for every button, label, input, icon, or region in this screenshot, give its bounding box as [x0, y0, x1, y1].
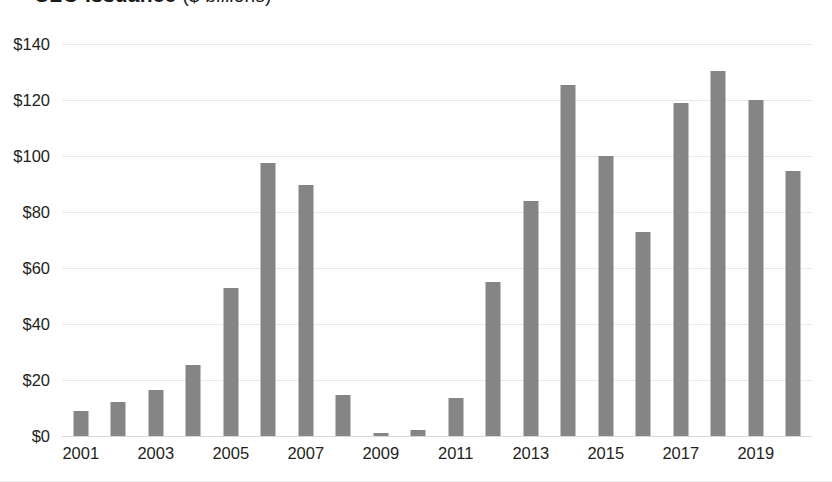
y-axis-tick-label: $0	[0, 427, 50, 446]
y-axis-tick-label: $140	[0, 35, 50, 54]
plot-area	[62, 44, 812, 436]
bar-2015	[598, 156, 613, 436]
y-axis-tick-label: $40	[0, 315, 50, 334]
page-title: CLO Issuance ($ billions)	[34, 0, 272, 7]
bar-2007	[298, 185, 313, 436]
bar-2001	[73, 411, 88, 436]
gridline-40	[62, 324, 812, 325]
bar-2002	[111, 402, 126, 436]
bar-2016	[636, 232, 651, 436]
bar-2008	[336, 395, 351, 436]
gridline-0	[62, 436, 812, 437]
x-axis-tick-label: 2011	[438, 444, 473, 463]
bar-2012	[486, 282, 501, 436]
y-axis-tick-label: $120	[0, 91, 50, 110]
bar-2006	[261, 163, 276, 436]
y-axis-tick-label: $60	[0, 259, 50, 278]
x-axis-tick-label: 2015	[587, 444, 624, 463]
bar-2005	[223, 288, 238, 436]
gridline-60	[62, 268, 812, 269]
chart-title-unit: ($ billions)	[183, 0, 272, 6]
bar-2018	[711, 71, 726, 436]
clo-issuance-bar-chart: CLO Issuance ($ billions) $0$20$40$60$80…	[0, 0, 832, 482]
gridline-120	[62, 100, 812, 101]
bar-2011	[448, 398, 463, 436]
y-axis-tick-label: $20	[0, 371, 50, 390]
x-axis-tick-label: 2019	[737, 444, 774, 463]
gridline-100	[62, 156, 812, 157]
x-axis-tick-label: 2009	[362, 444, 399, 463]
bar-2009	[373, 433, 388, 436]
y-axis-tick-label: $80	[0, 203, 50, 222]
x-axis-tick-label: 2003	[137, 444, 174, 463]
gridline-80	[62, 212, 812, 213]
chart-title-main: CLO Issuance	[34, 0, 176, 6]
x-axis-tick-label: 2007	[287, 444, 324, 463]
gridline-20	[62, 380, 812, 381]
x-axis-tick-label: 2005	[212, 444, 249, 463]
y-axis-tick-label: $100	[0, 147, 50, 166]
bar-2013	[523, 201, 538, 436]
gridline-140	[62, 44, 812, 45]
bar-2010	[411, 430, 426, 436]
x-axis-tick-label: 2001	[62, 444, 99, 463]
bar-2003	[148, 390, 163, 436]
bar-2019	[748, 100, 763, 436]
bar-2014	[561, 85, 576, 436]
bar-2017	[673, 103, 688, 436]
bar-2020	[786, 171, 801, 436]
bar-2004	[186, 365, 201, 436]
x-axis-tick-label: 2017	[662, 444, 699, 463]
x-axis-tick-label: 2013	[512, 444, 549, 463]
